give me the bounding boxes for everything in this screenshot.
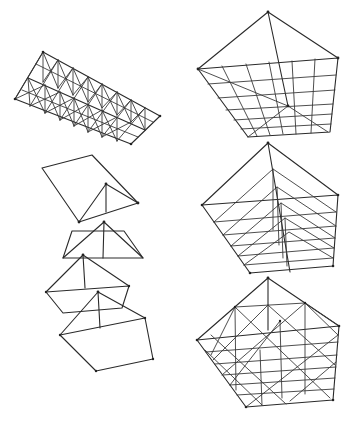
pyramid-full-lattice bbox=[196, 277, 341, 409]
pyramid-nested-ridges bbox=[201, 142, 340, 275]
exploded-pyramid-modules bbox=[42, 155, 154, 372]
gable-space-frame bbox=[14, 51, 162, 146]
pyramid-top-grid bbox=[197, 11, 340, 137]
space-frame-sketches bbox=[0, 0, 363, 428]
